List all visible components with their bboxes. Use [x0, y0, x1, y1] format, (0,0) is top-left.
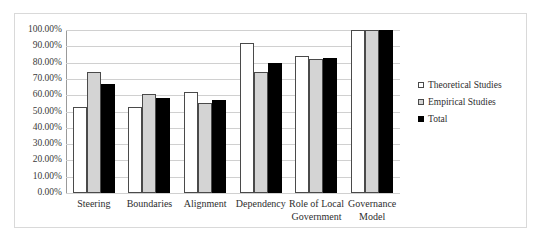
y-axis-tick-label: 90.00% — [6, 42, 62, 52]
bar — [73, 107, 87, 193]
chart-legend: Theoretical StudiesEmpirical StudiesTota… — [418, 80, 528, 131]
bar-group — [122, 30, 178, 193]
bar-group — [233, 30, 289, 193]
bar — [198, 103, 212, 193]
y-axis-tick-label: 40.00% — [6, 123, 62, 133]
bar — [351, 30, 365, 193]
legend-swatch-icon — [418, 99, 424, 105]
y-axis-tick-label: 60.00% — [6, 90, 62, 100]
bar-chart: 100.00%90.00%80.00%70.00%60.00%50.00%40.… — [0, 0, 541, 244]
bar — [323, 58, 337, 193]
bar — [295, 56, 309, 193]
bar — [254, 72, 268, 193]
y-axis-tick-label: 100.00% — [6, 25, 62, 35]
legend-swatch-icon — [418, 116, 424, 122]
y-axis-tick-label: 50.00% — [6, 107, 62, 117]
bar-group — [289, 30, 345, 193]
bar — [128, 107, 142, 193]
y-axis-tick-label: 20.00% — [6, 156, 62, 166]
legend-label: Total — [428, 114, 447, 124]
bar — [101, 84, 115, 193]
y-axis-tick-label: 10.00% — [6, 172, 62, 182]
bar — [212, 100, 226, 193]
y-axis-tick-label: 70.00% — [6, 74, 62, 84]
bar-group — [344, 30, 400, 193]
bar — [309, 59, 323, 193]
legend-item: Theoretical Studies — [418, 80, 528, 90]
bar — [365, 30, 379, 193]
bar — [142, 94, 156, 193]
y-axis-labels: 100.00%90.00%80.00%70.00%60.00%50.00%40.… — [4, 30, 62, 193]
legend-label: Empirical Studies — [428, 97, 496, 107]
bar — [87, 72, 101, 193]
bar-group — [66, 30, 122, 193]
legend-swatch-icon — [418, 82, 424, 88]
bar — [379, 30, 393, 193]
legend-item: Total — [418, 114, 528, 124]
gridline — [66, 193, 400, 194]
legend-item: Empirical Studies — [418, 97, 528, 107]
legend-label: Theoretical Studies — [428, 80, 502, 90]
x-axis-category-label: GovernanceModel — [336, 197, 408, 223]
bar — [268, 63, 282, 193]
plot-area — [66, 30, 400, 193]
bar — [184, 92, 198, 193]
y-axis-tick-label: 30.00% — [6, 139, 62, 149]
y-axis-tick-label: 80.00% — [6, 58, 62, 68]
bar-group — [177, 30, 233, 193]
y-axis-tick-label: 0.00% — [6, 188, 62, 198]
bar — [240, 43, 254, 193]
bar — [156, 98, 170, 193]
